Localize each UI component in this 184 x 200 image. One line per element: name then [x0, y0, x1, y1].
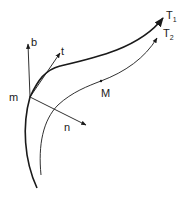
- label-t1-sub: 1: [173, 16, 177, 23]
- label-m: m: [9, 91, 18, 103]
- vector-t: [30, 53, 60, 97]
- label-t2: T2: [163, 27, 174, 41]
- label-t2-sub: 2: [170, 34, 174, 41]
- curve-t2: [40, 38, 157, 175]
- point-M-dot: [100, 80, 102, 82]
- label-n: n: [64, 121, 70, 133]
- label-t: t: [61, 45, 64, 57]
- frenet-frame-diagram: b t n m M T1 T2: [0, 0, 184, 200]
- label-M: M: [101, 87, 110, 99]
- label-b: b: [31, 36, 37, 48]
- label-t1: T1: [166, 9, 177, 23]
- vector-b: [28, 44, 30, 97]
- vector-n: [30, 97, 86, 125]
- curve-t1: [25, 18, 163, 188]
